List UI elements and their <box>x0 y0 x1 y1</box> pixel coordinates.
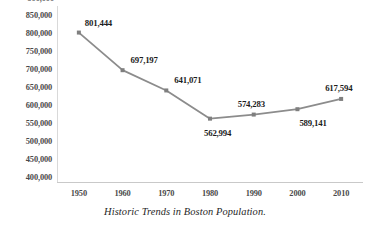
series-line <box>79 33 341 119</box>
series-marker <box>77 31 81 35</box>
data-point-label: 617,594 <box>325 83 352 93</box>
data-point-label: 562,994 <box>204 128 231 138</box>
data-point-label: 574,283 <box>238 99 265 109</box>
series-marker <box>252 113 256 117</box>
series-marker <box>164 88 168 92</box>
line-series-plot <box>0 0 370 226</box>
data-point-label: 697,197 <box>131 55 158 65</box>
series-marker <box>121 68 125 72</box>
data-point-label: 641,071 <box>174 75 201 85</box>
series-marker <box>208 117 212 121</box>
chart-figure: 900,000 850,000800,000750,000700,000650,… <box>0 0 370 226</box>
figure-caption: Historic Trends in Boston Population. <box>0 206 370 217</box>
series-marker <box>339 97 343 101</box>
series-marker <box>295 107 299 111</box>
data-point-label: 589,141 <box>299 118 326 128</box>
data-point-label: 801,444 <box>85 18 112 28</box>
